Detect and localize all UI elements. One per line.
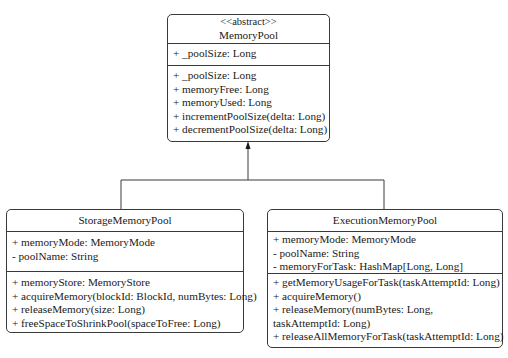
method-row: + releaseAllMemoryForTask(taskAttemptId:…	[273, 330, 496, 344]
class-name: ExecutionMemoryPool	[272, 214, 498, 228]
method-row: + memoryStore: MemoryStore	[12, 276, 237, 290]
method-row: + acquireMemory()	[273, 290, 496, 304]
method-row: + incrementPoolSize(delta: Long)	[173, 110, 323, 124]
class-storage-memory-pool[interactable]: StorageMemoryPool + memoryMode: MemoryMo…	[6, 209, 244, 333]
attribute-row: - poolName: String	[273, 247, 496, 261]
attribute-row: - memoryForTask: HashMap[Long, Long]	[273, 260, 496, 274]
method-row: + releaseMemory(size: Long)	[12, 303, 237, 317]
class-header: StorageMemoryPool	[7, 210, 243, 231]
attributes-section: + _poolSize: Long	[168, 43, 329, 65]
methods-section: + getMemoryUsageForTask(taskAttemptId: L…	[268, 273, 502, 346]
class-execution-memory-pool[interactable]: ExecutionMemoryPool + memoryMode: Memory…	[267, 209, 503, 348]
method-row: + acquireMemory(blockId: BlockId, numByt…	[12, 290, 237, 304]
methods-section: + _poolSize: Long + memoryFree: Long + m…	[168, 65, 329, 139]
method-row: + getMemoryUsageForTask(taskAttemptId: L…	[273, 276, 496, 290]
class-name: StorageMemoryPool	[11, 214, 239, 228]
methods-section: + memoryStore: MemoryStore + acquireMemo…	[7, 271, 243, 332]
method-row: + freeSpaceToShrinkPool(spaceToFree: Lon…	[12, 317, 237, 331]
attributes-section: + memoryMode: MemoryMode - poolName: Str…	[268, 231, 502, 273]
method-row: + releaseMemory(numBytes: Long, taskAtte…	[273, 303, 496, 330]
attribute-row: + memoryMode: MemoryMode	[12, 236, 237, 250]
attribute-row: + memoryMode: MemoryMode	[273, 233, 496, 247]
method-row: + memoryFree: Long	[173, 83, 323, 97]
class-header: <<abstract>> MemoryPool	[168, 15, 329, 43]
arrowhead-icon	[246, 141, 251, 149]
class-header: ExecutionMemoryPool	[268, 210, 502, 231]
attribute-row: - poolName: String	[12, 250, 237, 264]
attribute-row: + _poolSize: Long	[173, 47, 323, 61]
stereotype-label: <<abstract>>	[172, 16, 325, 28]
class-name: MemoryPool	[172, 28, 325, 42]
method-row: + memoryUsed: Long	[173, 96, 323, 110]
method-row: + decrementPoolSize(delta: Long)	[173, 123, 323, 137]
attributes-section: + memoryMode: MemoryMode - poolName: Str…	[7, 231, 243, 271]
class-memory-pool[interactable]: <<abstract>> MemoryPool + _poolSize: Lon…	[167, 14, 330, 142]
method-row: + _poolSize: Long	[173, 69, 323, 83]
